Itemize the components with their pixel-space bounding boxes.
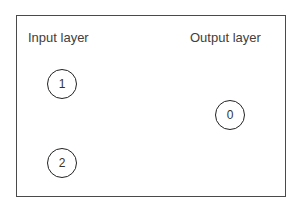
output-node-0: 0	[215, 100, 245, 130]
input-node-1: 1	[47, 69, 77, 99]
input-layer-label: Input layer	[28, 30, 89, 45]
output-layer-label: Output layer	[190, 30, 261, 45]
node-label: 1	[59, 77, 66, 91]
node-label: 0	[227, 108, 234, 122]
input-node-2: 2	[47, 148, 77, 178]
node-label: 2	[59, 156, 66, 170]
